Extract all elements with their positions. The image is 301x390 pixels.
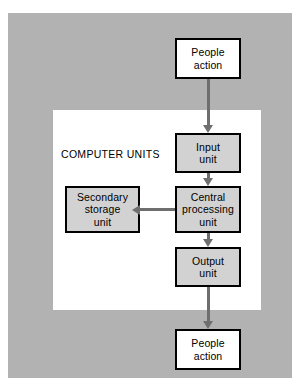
arrow-people-action-to-input-unit bbox=[207, 79, 210, 126]
node-secondary-storage-unit[interactable]: Secondary storage unit bbox=[65, 186, 140, 233]
arrow-output-unit-to-people-action bbox=[207, 287, 210, 322]
node-label-line: processing bbox=[182, 203, 234, 216]
node-label-line: Central bbox=[191, 191, 226, 204]
node-label-line: Secondary bbox=[77, 191, 128, 204]
node-label-line: Input bbox=[196, 141, 220, 154]
node-label-line: action bbox=[194, 59, 223, 72]
node-label-line: People bbox=[191, 46, 224, 59]
node-people-action-bottom[interactable]: People action bbox=[175, 329, 241, 370]
node-output-unit[interactable]: Output unit bbox=[175, 247, 241, 287]
node-label-line: unit bbox=[199, 153, 216, 166]
node-label-line: People bbox=[191, 337, 224, 350]
node-label-line: unit bbox=[94, 216, 111, 229]
node-input-unit[interactable]: Input unit bbox=[175, 133, 241, 173]
node-label-line: action bbox=[194, 350, 223, 363]
node-label-line: Output bbox=[192, 255, 224, 268]
computer-units-label: COMPUTER UNITS bbox=[61, 148, 160, 160]
node-central-processing-unit[interactable]: Central processing unit bbox=[175, 186, 241, 233]
node-label-line: storage bbox=[85, 203, 121, 216]
outer-gray-panel: COMPUTER UNITS People action Input unit … bbox=[8, 13, 292, 378]
arrow-cpu-to-output-unit bbox=[207, 233, 210, 240]
node-people-action-top[interactable]: People action bbox=[175, 38, 241, 79]
arrow-input-unit-to-cpu bbox=[207, 173, 210, 179]
node-label-line: unit bbox=[199, 216, 216, 229]
node-label-line: unit bbox=[199, 267, 216, 280]
arrow-secondary-storage-to-cpu-bidirectional bbox=[140, 208, 175, 211]
diagram-canvas: COMPUTER UNITS People action Input unit … bbox=[0, 0, 301, 390]
